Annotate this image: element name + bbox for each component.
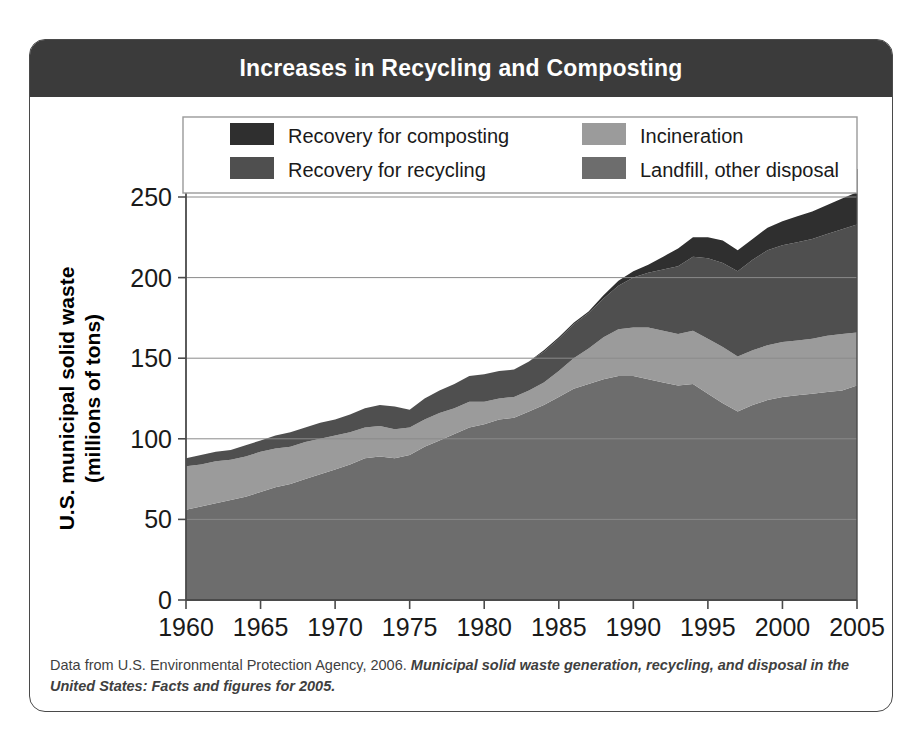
y-tick-label: 150	[130, 344, 172, 372]
legend-swatch	[582, 157, 626, 179]
x-tick-label: 2000	[755, 613, 811, 641]
y-tick-label: 250	[130, 183, 172, 211]
legend-item: Recovery for composting	[230, 123, 509, 147]
figure-caption: Data from U.S. Environmental Protection …	[30, 647, 892, 711]
legend-item: Landfill, other disposal	[582, 157, 839, 181]
figure-title-bar: Increases in Recycling and Composting	[30, 40, 892, 97]
legend-label: Incineration	[640, 125, 743, 147]
x-tick-label: 1995	[680, 613, 736, 641]
x-tick-label: 1990	[606, 613, 662, 641]
x-tick-label: 2005	[829, 613, 885, 641]
legend-label: Recovery for composting	[288, 125, 509, 147]
page-title: Increases in Recycling and Composting	[239, 55, 682, 82]
legend-box	[183, 117, 857, 193]
y-tick-label: 200	[130, 264, 172, 292]
legend-swatch	[230, 157, 274, 179]
y-axis-title: U.S. municipal solid waste(millions of t…	[55, 267, 104, 531]
legend-item: Recovery for recycling	[230, 157, 486, 181]
x-tick-label: 1965	[233, 613, 289, 641]
y-tick-label: 50	[144, 505, 172, 533]
stacked-area-chart: 0501001502002501960196519701975198019851…	[30, 97, 893, 650]
figure-card: Increases in Recycling and Composting 05…	[29, 39, 893, 712]
x-tick-label: 1960	[158, 613, 214, 641]
y-tick-label: 100	[130, 425, 172, 453]
svg-text:U.S. municipal solid waste: U.S. municipal solid waste	[55, 267, 78, 531]
x-tick-label: 1985	[531, 613, 587, 641]
caption-source: Data from U.S. Environmental Protection …	[50, 657, 411, 673]
y-tick-label: 0	[158, 586, 172, 614]
x-tick-label: 1970	[307, 613, 363, 641]
legend-label: Recovery for recycling	[288, 159, 486, 181]
figure-root: Increases in Recycling and Composting 05…	[0, 0, 922, 749]
legend-item: Incineration	[582, 123, 743, 147]
x-tick-label: 1975	[382, 613, 438, 641]
x-tick-label: 1980	[456, 613, 512, 641]
legend-swatch	[582, 123, 626, 145]
legend-swatch	[230, 123, 274, 145]
chart-area: 0501001502002501960196519701975198019851…	[30, 97, 892, 650]
legend-label: Landfill, other disposal	[640, 159, 839, 181]
svg-text:(millions of tons): (millions of tons)	[81, 314, 104, 483]
